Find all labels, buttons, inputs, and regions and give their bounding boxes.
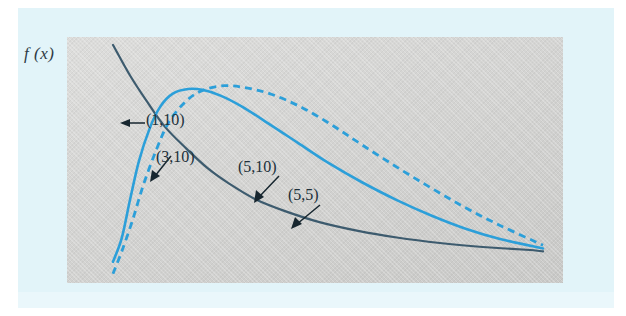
arrow-1-10: [120, 119, 145, 127]
arrow-5-5: [291, 205, 320, 229]
annotation-5-5: (5,5): [288, 186, 319, 204]
page-background-bottom: [18, 292, 614, 308]
annotation-5-10: (5,10): [238, 158, 277, 176]
curves-svg: [67, 37, 563, 283]
annotation-1-10: (1,10): [146, 111, 185, 129]
arrow-5-10: [254, 176, 279, 203]
annotation-3-10: (3,10): [156, 148, 195, 166]
figure-root: f (x): [0, 0, 626, 316]
y-axis-label: f (x): [24, 44, 54, 64]
